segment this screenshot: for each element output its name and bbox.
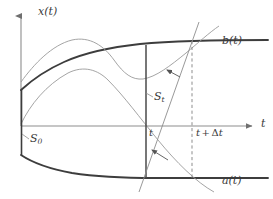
- time-section-label-subscript: t: [162, 95, 165, 104]
- s0-leader-line: [22, 134, 29, 139]
- initial-section-label-base: S: [30, 132, 38, 145]
- y-axis-label: x(t): [38, 6, 57, 17]
- x-tick-label-t: t: [149, 128, 153, 138]
- pointer-line-group: [139, 22, 199, 192]
- axes-group: [21, 16, 252, 126]
- figure-container: x(t) t b(t) a(t) S0 St t t+Δt: [0, 0, 273, 199]
- diagram-canvas: [0, 0, 273, 199]
- lower-boundary-label-a: a(t): [222, 175, 242, 186]
- initial-section-label-subscript: 0: [38, 137, 43, 146]
- x-axis-label: t: [261, 118, 265, 129]
- tick-plus-sign: +: [200, 127, 211, 138]
- section-markers-group: [22, 41, 193, 178]
- sample-path-curve-1: [21, 26, 219, 82]
- x-tick-label-t-plus-delta-t: t+Δt: [196, 128, 223, 138]
- diagonal-pointer-line: [139, 22, 199, 192]
- tick-t-tail: t: [219, 127, 223, 138]
- upper-pointer-arrow: [167, 70, 180, 77]
- boundary-curves-group: [21, 40, 268, 178]
- upper-boundary-label-b: b(t): [222, 35, 242, 46]
- upper-boundary-curve-b: [21, 40, 268, 90]
- st-leader-line: [146, 93, 153, 97]
- time-section-label-base: S: [154, 90, 162, 103]
- tick-delta-symbol: Δ: [211, 127, 218, 138]
- time-section-label-st: St: [154, 91, 165, 102]
- lower-pointer-arrow: [152, 150, 168, 160]
- sample-path-curve-2: [21, 69, 214, 192]
- initial-section-label-s0: S0: [30, 133, 42, 144]
